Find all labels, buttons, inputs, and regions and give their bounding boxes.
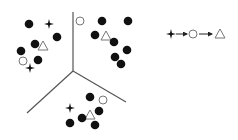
open-circle-icon [189,30,197,38]
open-triangle-icon [38,41,48,50]
clusters [17,17,133,130]
open-circle-icon [99,96,107,104]
black-dot-icon [98,17,107,26]
black-dot-icon [91,31,100,40]
black-dot-icon [95,107,104,116]
region-dividers [27,12,126,113]
black-dot-icon [78,114,87,123]
four-point-star-icon [44,19,54,29]
legend [166,29,225,39]
upper-left-cluster [17,19,62,73]
open-triangle-icon [85,110,95,119]
black-dot-icon [110,38,119,47]
upper-right-cluster [76,17,132,69]
black-dot-icon [34,56,43,65]
bottom-cluster [65,93,107,130]
black-dot-icon [123,46,132,55]
black-dot-icon [17,47,26,56]
open-triangle-icon [101,31,111,40]
black-dot-icon [111,53,120,62]
black-dot-icon [53,33,62,42]
black-dot-icon [31,40,40,49]
lower-left-divider [27,71,73,113]
four-point-star-icon [25,63,35,73]
black-dot-icon [66,119,75,128]
black-dot-icon [25,20,34,29]
black-dot-icon [86,93,95,102]
black-dot-icon [124,17,133,26]
diagram-canvas [0,0,238,140]
four-point-star-icon [65,103,75,113]
black-dot-icon [117,60,126,69]
open-triangle-icon [215,29,225,38]
black-dot-icon [91,121,100,130]
four-point-star-icon [166,29,176,39]
open-circle-icon [76,17,84,25]
open-circle-icon [19,57,27,65]
